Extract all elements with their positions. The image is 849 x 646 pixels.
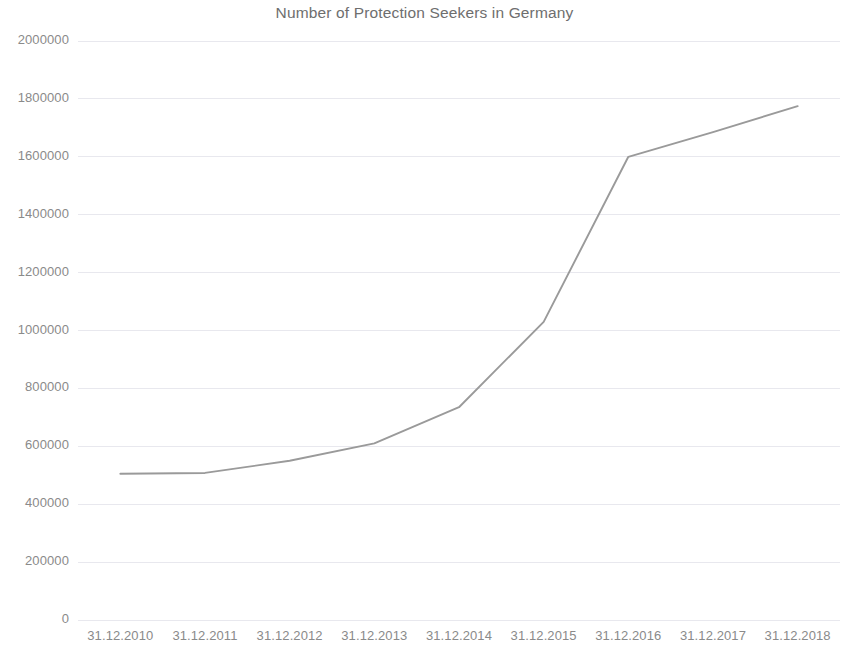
data-series-group [120, 106, 797, 474]
y-axis-tick-label: 1200000 [18, 264, 69, 279]
y-axis-tick-label: 600000 [25, 437, 69, 452]
y-axis-tick-label: 1000000 [18, 322, 69, 337]
x-axis-tick-label: 31.12.2015 [501, 628, 586, 643]
y-axis-tick-label: 1800000 [18, 90, 69, 105]
x-axis-tick-label: 31.12.2012 [247, 628, 332, 643]
data-line [120, 106, 797, 474]
x-axis-tick-label: 31.12.2018 [755, 628, 840, 643]
y-axis-tick-label: 1400000 [18, 206, 69, 221]
chart-plot-area [0, 0, 849, 646]
y-axis-tick-label: 0 [62, 611, 69, 626]
x-axis-tick-label: 31.12.2017 [671, 628, 756, 643]
chart-container: Number of Protection Seekers in Germany … [0, 0, 849, 646]
y-axis-tick-label: 2000000 [18, 32, 69, 47]
x-axis-tick-label: 31.12.2014 [417, 628, 502, 643]
y-axis-tick-label: 200000 [25, 553, 69, 568]
x-axis-tick-label: 31.12.2016 [586, 628, 671, 643]
y-axis-tick-label: 800000 [25, 379, 69, 394]
x-axis-tick-label: 31.12.2010 [78, 628, 163, 643]
y-axis-tick-label: 1600000 [18, 148, 69, 163]
x-axis-tick-label: 31.12.2013 [332, 628, 417, 643]
x-axis-tick-label: 31.12.2011 [163, 628, 248, 643]
y-axis-tick-label: 400000 [25, 495, 69, 510]
